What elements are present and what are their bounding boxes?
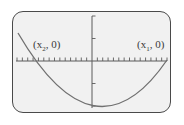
left-root-label: (x2, 0) [33,38,61,53]
right-root-label: (x1, 0) [137,38,165,53]
parabola-plot: (x2, 0) (x1, 0) [0,0,184,125]
